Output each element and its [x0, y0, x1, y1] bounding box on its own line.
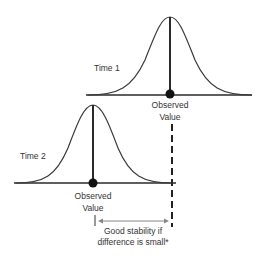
stability-diagram: Time 1 Observed Value Time 2 Observed Va…	[0, 0, 267, 259]
time1-observed-dot	[166, 90, 175, 99]
time2-observed-label-line2: Value	[82, 203, 103, 213]
difference-caption-line1: Good stability if	[104, 226, 163, 236]
time1-distribution: Time 1 Observed Value	[86, 17, 252, 122]
difference-caption-line2: difference is small*	[97, 237, 169, 247]
time2-distribution: Time 2 Observed Value	[14, 105, 176, 213]
time1-observed-label-line2: Value	[159, 112, 180, 122]
difference-indicator: Good stability if difference is small*	[95, 215, 169, 247]
time1-label: Time 1	[94, 63, 120, 73]
time1-observed-label-line1: Observed	[152, 100, 189, 110]
arrow-right-icon	[164, 219, 169, 224]
arrow-left-icon	[98, 219, 103, 224]
time2-label: Time 2	[20, 151, 46, 161]
time2-observed-label-line1: Observed	[75, 191, 112, 201]
time2-observed-dot	[89, 179, 98, 188]
